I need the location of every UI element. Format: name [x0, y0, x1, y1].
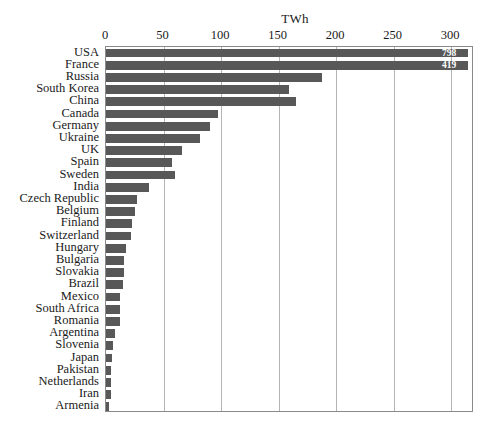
bar-row[interactable] — [106, 218, 474, 230]
x-tick-label: 100 — [211, 28, 230, 43]
bar[interactable] — [106, 280, 123, 289]
bar[interactable] — [106, 293, 120, 302]
bar-row[interactable] — [106, 364, 474, 376]
category-label: Canada — [62, 107, 99, 119]
plot-area: 798419 — [105, 46, 473, 412]
category-axis-labels: USAFranceRussiaSouth KoreaChinaCanadaGer… — [0, 46, 102, 412]
bar-row[interactable] — [106, 108, 474, 120]
bar[interactable] — [106, 317, 120, 326]
bar[interactable] — [106, 122, 210, 131]
bar-row[interactable] — [106, 340, 474, 352]
bar[interactable] — [106, 158, 172, 167]
bar[interactable] — [106, 366, 111, 375]
bar-row[interactable] — [106, 352, 474, 364]
category-label: Brazil — [68, 277, 99, 289]
bar-row[interactable] — [106, 254, 474, 266]
bar-row[interactable] — [106, 389, 474, 401]
bar-row[interactable] — [106, 230, 474, 242]
x-tick-label: 200 — [326, 28, 345, 43]
bar-value-label: 798 — [442, 47, 456, 59]
bar[interactable] — [106, 110, 218, 119]
bar[interactable] — [106, 85, 289, 94]
category-label: Japan — [71, 351, 99, 363]
bar-row[interactable] — [106, 206, 474, 218]
bar-row[interactable] — [106, 132, 474, 144]
bar-row[interactable] — [106, 242, 474, 254]
bar[interactable] — [106, 244, 126, 253]
bar[interactable] — [106, 134, 200, 143]
x-tick-label: 300 — [441, 28, 460, 43]
bar[interactable] — [106, 305, 120, 314]
bar-row[interactable] — [106, 401, 474, 413]
bar[interactable] — [106, 402, 109, 411]
x-axis-tick-labels: 050100150200250300 — [105, 28, 473, 44]
bar[interactable] — [106, 256, 124, 265]
category-label: Switzerland — [39, 229, 99, 241]
category-label: Mexico — [61, 290, 99, 302]
bar[interactable] — [106, 49, 468, 58]
category-label: Armenia — [55, 399, 99, 411]
bar[interactable] — [106, 268, 124, 277]
bar-row[interactable] — [106, 279, 474, 291]
bar[interactable] — [106, 207, 135, 216]
bar-value-label: 419 — [442, 59, 456, 71]
bar-row[interactable] — [106, 193, 474, 205]
bar-row[interactable] — [106, 291, 474, 303]
bar-row[interactable]: 798 — [106, 47, 474, 59]
category-label: Sweden — [59, 168, 99, 180]
bar-row[interactable] — [106, 157, 474, 169]
bar[interactable] — [106, 354, 112, 363]
axis-title: TWh — [0, 11, 494, 27]
bar-row[interactable] — [106, 169, 474, 181]
bar-row[interactable] — [106, 328, 474, 340]
bar-row[interactable] — [106, 181, 474, 193]
bar[interactable] — [106, 232, 131, 241]
bar[interactable] — [106, 219, 132, 228]
bar-row[interactable] — [106, 96, 474, 108]
category-label: Spain — [71, 155, 99, 167]
bar-row[interactable] — [106, 84, 474, 96]
bar-row[interactable] — [106, 71, 474, 83]
bar-chart: TWh 050100150200250300 USAFranceRussiaSo… — [0, 0, 494, 433]
bar-row[interactable] — [106, 120, 474, 132]
bar[interactable] — [106, 146, 182, 155]
bar[interactable] — [106, 195, 137, 204]
bar[interactable] — [106, 171, 175, 180]
category-label: USA — [74, 46, 99, 58]
category-label: Finland — [61, 216, 99, 228]
bar[interactable] — [106, 378, 111, 387]
bar[interactable] — [106, 329, 115, 338]
bar[interactable] — [106, 183, 149, 192]
x-tick-label: 150 — [268, 28, 287, 43]
x-tick-label: 0 — [102, 28, 108, 43]
category-label: China — [69, 94, 99, 106]
bar[interactable] — [106, 73, 322, 82]
bar-row[interactable]: 419 — [106, 59, 474, 71]
bar[interactable] — [106, 390, 111, 399]
bar-row[interactable] — [106, 145, 474, 157]
bar[interactable] — [106, 97, 296, 106]
bar-row[interactable] — [106, 315, 474, 327]
bar-row[interactable] — [106, 303, 474, 315]
x-tick-label: 50 — [156, 28, 169, 43]
bar[interactable] — [106, 61, 468, 70]
x-tick-label: 250 — [383, 28, 402, 43]
category-label: Slovenia — [55, 338, 99, 350]
bar[interactable] — [106, 341, 113, 350]
bar-row[interactable] — [106, 267, 474, 279]
bar-row[interactable] — [106, 376, 474, 388]
